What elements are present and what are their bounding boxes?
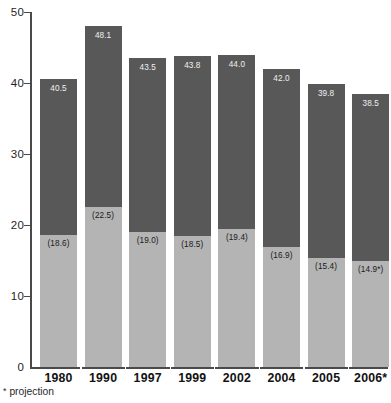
bar-total-label: 43.8 (174, 61, 211, 70)
bar-segment-lower: (16.9) (263, 247, 300, 367)
bar-segment-lower: (18.5) (174, 236, 211, 367)
bar-segment-lower: (19.4) (218, 229, 255, 367)
bar-group: 38.5(14.9*) (352, 94, 389, 367)
bar-group: 48.1(22.5) (85, 26, 122, 368)
bar-total-label: 42.0 (263, 74, 300, 83)
bar-lower-label: (16.9) (263, 251, 300, 260)
bar-total-label: 48.1 (85, 31, 122, 40)
x-axis-label-2002: 2002 (214, 371, 259, 385)
x-axis-label-2005: 2005 (304, 371, 349, 385)
x-axis-label-1999: 1999 (170, 371, 215, 385)
footnote-marker: * (3, 386, 7, 396)
bar-lower-label: (15.4) (308, 262, 345, 271)
bar-total-label: 38.5 (352, 99, 389, 108)
bar-lower-label: (22.5) (85, 211, 122, 220)
bar-group: 40.5(18.6) (40, 79, 77, 367)
y-axis-labels: 50 40 30 20 10 0 (0, 10, 24, 369)
y-axis-label-50: 50 (0, 6, 24, 18)
x-tick (348, 359, 349, 369)
x-axis-label-1997: 1997 (125, 371, 170, 385)
x-axis-label-1980: 1980 (36, 371, 81, 385)
x-tick (303, 359, 304, 369)
footnote-text: projection (9, 386, 54, 397)
x-axis-label-2004: 2004 (259, 371, 304, 385)
x-tick (80, 359, 81, 369)
x-tick (214, 359, 215, 369)
bar-lower-label: (19.4) (218, 233, 255, 242)
bar-group: 43.8(18.5) (174, 56, 211, 367)
x-tick (170, 359, 171, 369)
bar-segment-lower: (22.5) (85, 207, 122, 367)
footnote: * projection (3, 386, 54, 397)
y-axis-label-40: 40 (0, 77, 24, 89)
bar-group: 39.8(15.4) (308, 84, 345, 367)
bar-series-container: 40.5(18.6)48.1(22.5)43.5(19.0)43.8(18.5)… (30, 10, 388, 369)
bar-segment-lower: (19.0) (129, 232, 166, 367)
bar-total-label: 43.5 (129, 63, 166, 72)
bar-total-label: 44.0 (218, 60, 255, 69)
y-axis-label-0: 0 (0, 361, 24, 373)
x-axis-label-2006: 2006* (348, 371, 391, 385)
bar-lower-label: (19.0) (129, 236, 166, 245)
bar-lower-label: (18.5) (174, 240, 211, 249)
bar-lower-label: (14.9*) (352, 265, 389, 274)
bar-segment-lower: (18.6) (40, 235, 77, 367)
bar-total-label: 39.8 (308, 89, 345, 98)
bar-segment-lower: (15.4) (308, 258, 345, 367)
y-axis-label-10: 10 (0, 290, 24, 302)
x-tick (259, 359, 260, 369)
x-tick (125, 359, 126, 369)
bar-lower-label: (18.6) (40, 239, 77, 248)
x-axis-label-1990: 1990 (81, 371, 126, 385)
y-axis-label-30: 30 (0, 148, 24, 160)
plot-area: 40.5(18.6)48.1(22.5)43.5(19.0)43.8(18.5)… (30, 10, 388, 369)
bar-group: 43.5(19.0) (129, 58, 166, 367)
bar-group: 42.0(16.9) (263, 69, 300, 367)
x-axis-category-labels: 19801990199719992002200420052006* (30, 371, 388, 391)
bar-segment-lower: (14.9*) (352, 261, 389, 367)
y-axis-label-20: 20 (0, 219, 24, 231)
bar-group: 44.0(19.4) (218, 55, 255, 367)
bar-total-label: 40.5 (40, 84, 77, 93)
stacked-bar-chart: 50 40 30 20 10 0 40.5(18.6)48.1(22.5)43.… (0, 0, 391, 403)
